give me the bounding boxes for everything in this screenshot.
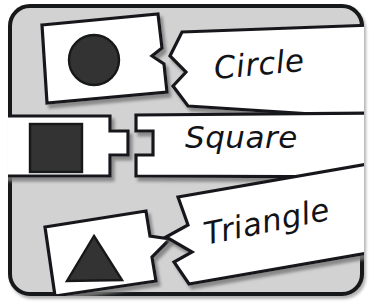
puzzle-illustration: Circle: [0, 0, 374, 304]
puzzle-piece-label-triangle[interactable]: [8, 4, 364, 296]
puzzle-pieces-layer: Circle: [8, 4, 364, 296]
